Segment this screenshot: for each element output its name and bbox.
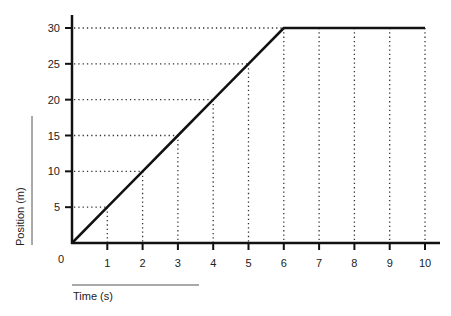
y-tick-label: 15 [48,130,60,142]
x-tick-label: 7 [316,257,322,269]
x-tick-label: 4 [210,257,216,269]
y-tick-label: 10 [48,165,60,177]
y-tick-label: 5 [54,201,60,213]
x-tick-label: 9 [387,257,393,269]
x-tick-label: 8 [351,257,357,269]
axis-ticks [65,28,425,250]
x-tick-label: 6 [281,257,287,269]
x-tick-label: 5 [245,257,251,269]
dotted-gridlines [74,28,425,243]
y-tick-label: 25 [48,58,60,70]
x-axis-title: Time (s) [73,290,113,302]
y-axis-title: Position (m) [14,187,26,246]
y-tick-label: 20 [48,94,60,106]
x-tick-label: 1 [104,257,110,269]
tick-labels: 1234567891051015202530 [48,22,431,269]
x-tick-label: 3 [175,257,181,269]
axes [71,15,440,244]
position-time-chart: 1234567891051015202530 0 Position (m) Ti… [0,0,451,316]
origin-label: 0 [58,253,64,265]
x-tick-label: 10 [419,257,431,269]
x-tick-label: 2 [140,257,146,269]
y-tick-label: 30 [48,22,60,34]
